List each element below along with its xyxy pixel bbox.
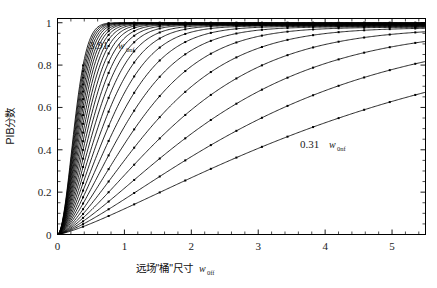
data-point-marker bbox=[82, 77, 84, 79]
data-point-marker bbox=[312, 67, 314, 69]
data-point-marker bbox=[108, 61, 110, 63]
y-axis-title: PIB分数 bbox=[4, 107, 16, 145]
data-point-marker bbox=[312, 34, 314, 36]
data-point-marker bbox=[133, 147, 135, 149]
data-point-marker bbox=[287, 31, 289, 33]
data-point-marker bbox=[82, 174, 84, 176]
annotation-upper-value: 3.91 bbox=[89, 39, 108, 51]
data-point-marker bbox=[108, 168, 110, 170]
data-point-marker bbox=[389, 69, 391, 71]
data-point-marker bbox=[133, 179, 135, 181]
data-point-marker bbox=[312, 94, 314, 96]
data-point-marker bbox=[159, 137, 161, 139]
x-tick-label: 2 bbox=[189, 240, 195, 252]
data-point-marker bbox=[389, 34, 391, 36]
data-point-marker bbox=[133, 92, 135, 94]
data-point-marker bbox=[133, 35, 135, 37]
data-point-marker bbox=[363, 109, 365, 111]
data-point-marker bbox=[133, 27, 135, 29]
y-tick-label: 0.8 bbox=[38, 59, 52, 71]
data-point-marker bbox=[108, 30, 110, 32]
data-point-marker bbox=[184, 91, 186, 93]
data-point-marker bbox=[235, 56, 237, 58]
data-point-marker bbox=[414, 94, 416, 96]
data-point-marker bbox=[108, 154, 110, 156]
data-point-marker bbox=[287, 39, 289, 41]
data-point-marker bbox=[108, 72, 110, 74]
data-point-marker bbox=[235, 157, 237, 159]
data-point-marker bbox=[108, 28, 110, 30]
data-point-marker bbox=[235, 103, 237, 105]
data-point-marker bbox=[235, 77, 237, 79]
data-point-marker bbox=[414, 63, 416, 65]
data-point-marker bbox=[338, 27, 340, 29]
data-point-marker bbox=[133, 75, 135, 77]
data-point-marker bbox=[210, 94, 212, 96]
y-tick-label: 0.4 bbox=[38, 144, 52, 156]
data-point-marker bbox=[82, 226, 84, 228]
data-point-marker bbox=[108, 191, 110, 193]
data-point-marker bbox=[389, 28, 391, 30]
annotation-upper-subscript: 0nf bbox=[126, 46, 136, 53]
data-point-marker bbox=[287, 27, 289, 29]
annotation-lower-subscript: 0nf bbox=[337, 145, 347, 152]
data-point-marker bbox=[133, 62, 135, 64]
data-point-marker bbox=[210, 71, 212, 73]
data-point-marker bbox=[82, 70, 84, 72]
x-tick-label: 4 bbox=[322, 240, 328, 252]
data-point-marker bbox=[287, 54, 289, 56]
data-point-marker bbox=[82, 106, 84, 108]
data-point-marker bbox=[261, 117, 263, 119]
data-point-marker bbox=[184, 26, 186, 28]
data-point-marker bbox=[210, 40, 212, 42]
data-point-marker bbox=[82, 98, 84, 100]
data-point-marker bbox=[261, 89, 263, 91]
data-point-marker bbox=[159, 191, 161, 193]
data-point-marker bbox=[184, 33, 186, 35]
data-point-marker bbox=[210, 53, 212, 55]
pib-fraction-chart: 012345 00.20.40.60.81 远场"桶"尺寸 w 0ff PIB分… bbox=[0, 0, 437, 288]
y-tick-label: 0.2 bbox=[38, 186, 52, 198]
data-point-marker bbox=[389, 26, 391, 28]
data-point-marker bbox=[312, 28, 314, 30]
data-point-marker bbox=[108, 181, 110, 183]
data-point-marker bbox=[108, 111, 110, 113]
data-point-marker bbox=[184, 41, 186, 43]
data-point-marker bbox=[235, 41, 237, 43]
data-point-marker bbox=[82, 223, 84, 225]
data-point-marker bbox=[184, 53, 186, 55]
data-point-marker bbox=[108, 215, 110, 217]
data-point-marker bbox=[235, 130, 237, 132]
data-point-marker bbox=[184, 137, 186, 139]
data-point-marker bbox=[210, 32, 212, 34]
data-point-marker bbox=[287, 136, 289, 138]
data-point-marker bbox=[261, 26, 263, 28]
annotation-lower-value: 0.31 bbox=[300, 138, 319, 150]
data-point-marker bbox=[82, 190, 84, 192]
data-point-marker bbox=[133, 41, 135, 43]
data-point-marker bbox=[414, 27, 416, 29]
data-point-marker bbox=[389, 46, 391, 48]
data-point-marker bbox=[363, 52, 365, 54]
x-axis-title-symbol: w bbox=[199, 263, 206, 274]
data-point-marker bbox=[184, 28, 186, 30]
data-point-marker bbox=[210, 28, 212, 30]
chart-svg: 012345 00.20.40.60.81 远场"桶"尺寸 w 0ff PIB分… bbox=[0, 0, 437, 288]
data-point-marker bbox=[108, 97, 110, 99]
data-point-marker bbox=[363, 76, 365, 78]
y-tick-label: 1 bbox=[46, 17, 52, 29]
data-point-marker bbox=[108, 201, 110, 203]
data-point-marker bbox=[184, 70, 186, 72]
data-point-marker bbox=[159, 37, 161, 39]
y-tick-label: 0 bbox=[46, 229, 52, 241]
data-point-marker bbox=[108, 84, 110, 86]
data-point-marker bbox=[133, 25, 135, 27]
data-point-marker bbox=[159, 25, 161, 27]
data-point-marker bbox=[312, 26, 314, 28]
data-point-marker bbox=[312, 126, 314, 128]
data-point-marker bbox=[312, 46, 314, 48]
data-point-marker bbox=[133, 128, 135, 130]
data-point-marker bbox=[159, 175, 161, 177]
data-point-marker bbox=[82, 213, 84, 215]
data-point-marker bbox=[414, 31, 416, 33]
